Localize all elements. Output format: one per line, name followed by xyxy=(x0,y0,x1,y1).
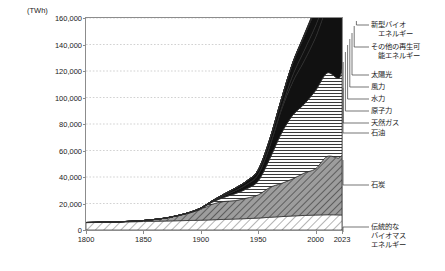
y-axis-tick-label: 40,000 xyxy=(59,173,82,182)
x-axis-tick-mark xyxy=(86,231,87,234)
y-axis-tick-mark xyxy=(83,204,86,205)
y-axis-tick-mark xyxy=(83,151,86,152)
legend-label-oil: 石油 xyxy=(371,128,385,137)
x-axis-tick-mark xyxy=(143,231,144,234)
x-axis-tick-mark xyxy=(342,231,343,234)
leader-line xyxy=(343,62,369,123)
legend-label-nuclear: 原子力 xyxy=(371,106,392,115)
y-axis-tick-label: 160,000 xyxy=(55,14,82,23)
y-axis-labels: 160,000140,000120,000100,00080,00060,000… xyxy=(0,0,82,271)
y-axis-tick-mark xyxy=(83,45,86,46)
x-axis-tick-label: 2023 xyxy=(334,235,351,244)
x-axis-tick-label: 2000 xyxy=(307,235,324,244)
legend-label-other-renewable-energy: その他の再生可 能エネルギー xyxy=(371,42,420,60)
y-axis-tick-label: 80,000 xyxy=(59,120,82,129)
y-axis-tick-label: 60,000 xyxy=(59,146,82,155)
leader-line xyxy=(352,33,369,75)
legend-label-hydro: 水力 xyxy=(371,94,385,103)
y-axis-tick-mark xyxy=(83,18,86,19)
legend-label-solar: 太陽光 xyxy=(371,70,392,79)
legend-label-natural-gas: 天然ガス xyxy=(371,118,399,127)
leader-line xyxy=(350,39,369,87)
x-axis-tick-mark xyxy=(201,231,202,234)
legend-label-traditional-biomass: 伝統的な バイオマス エネルギー xyxy=(371,222,406,250)
leader-line xyxy=(348,45,369,99)
legend-label-coal: 石炭 xyxy=(371,180,385,189)
x-axis-tick-label: 1800 xyxy=(78,235,95,244)
y-axis-tick-mark xyxy=(83,124,86,125)
legend-label-wind: 風力 xyxy=(371,82,385,91)
plot-area xyxy=(85,17,343,231)
y-axis-tick-label: 20,000 xyxy=(59,199,82,208)
x-axis-tick-label: 1900 xyxy=(192,235,209,244)
leader-line xyxy=(343,88,369,133)
stacked-area-series xyxy=(86,18,342,230)
leader-line xyxy=(356,21,369,25)
y-axis-tick-mark xyxy=(83,71,86,72)
y-axis-tick-label: 120,000 xyxy=(55,67,82,76)
x-axis-tick-label: 1850 xyxy=(135,235,152,244)
y-axis-tick-label: 0 xyxy=(78,226,82,235)
leader-line xyxy=(343,227,369,232)
chart-figure: (TWh) 160,000140,000120,000100,00080,000… xyxy=(0,0,445,271)
x-axis-tick-label: 1950 xyxy=(250,235,267,244)
leader-line xyxy=(354,26,369,47)
x-axis-tick-mark xyxy=(316,231,317,234)
y-axis-tick-mark xyxy=(83,177,86,178)
y-axis-tick-mark xyxy=(83,98,86,99)
x-axis-tick-mark xyxy=(258,231,259,234)
y-axis-tick-label: 100,000 xyxy=(55,93,82,102)
leader-line xyxy=(343,160,369,185)
leader-line xyxy=(345,52,369,111)
y-axis-tick-label: 140,000 xyxy=(55,40,82,49)
legend-label-new-bio-energy: 新型バイオ エネルギー xyxy=(371,20,413,38)
